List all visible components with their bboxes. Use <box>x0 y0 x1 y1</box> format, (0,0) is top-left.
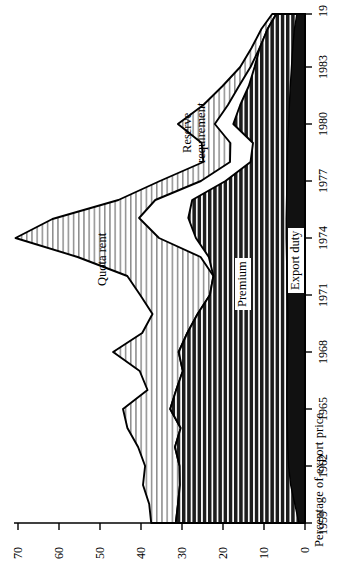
value-tick-40: 40 <box>134 547 149 559</box>
label-premium: Premium <box>235 258 251 310</box>
value-tick-70: 70 <box>11 547 26 559</box>
value-tick-50: 50 <box>93 547 108 559</box>
year-tick-1980: 1980 <box>316 112 331 136</box>
value-tick-60: 60 <box>52 547 67 559</box>
figure-canvas: Percentage of export price <box>0 0 353 567</box>
year-tick-1974: 1974 <box>316 226 331 250</box>
year-tick-1977: 1977 <box>316 169 331 193</box>
label-reserve-requirement: Reserve requirement <box>181 103 208 163</box>
year-tick-1983: 1983 <box>316 55 331 79</box>
rotated-chart-container: Percentage of export price <box>0 0 353 567</box>
value-tick-30: 30 <box>175 547 190 559</box>
label-export-duty: Export duty <box>288 228 304 293</box>
year-tick-1971: 1971 <box>316 283 331 307</box>
label-quota-rent: Quota rent <box>96 233 110 286</box>
year-tick-1959: 1959 <box>316 511 331 535</box>
year-tick-1968: 1968 <box>316 340 331 364</box>
label-reserve-requirement-line2: requirement <box>194 103 208 163</box>
label-reserve-requirement-line1: Reserve <box>180 113 194 153</box>
value-tick-20: 20 <box>216 547 231 559</box>
value-tick-10: 10 <box>257 547 272 559</box>
year-tick-1986: 19 <box>316 5 331 17</box>
year-tick-1965: 1965 <box>316 397 331 421</box>
year-tick-1962: 1962 <box>316 454 331 478</box>
value-tick-0: 0 <box>298 547 313 553</box>
